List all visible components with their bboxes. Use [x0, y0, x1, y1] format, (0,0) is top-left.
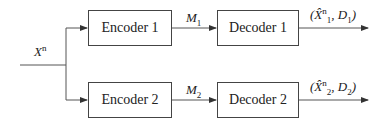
encoder-1-box: Encoder 1	[88, 10, 172, 46]
decoder-1-box: Decoder 1	[217, 10, 299, 46]
message-2-label: M2	[186, 82, 201, 100]
output-1-label: (X̂n1, D1)	[310, 6, 356, 25]
output-2-label: (X̂n2, D2)	[310, 78, 356, 97]
decoder-2-box: Decoder 2	[217, 82, 299, 118]
input-label: Xn	[34, 43, 46, 60]
message-1-label: M1	[186, 10, 201, 28]
encoder-2-box: Encoder 2	[88, 82, 172, 118]
